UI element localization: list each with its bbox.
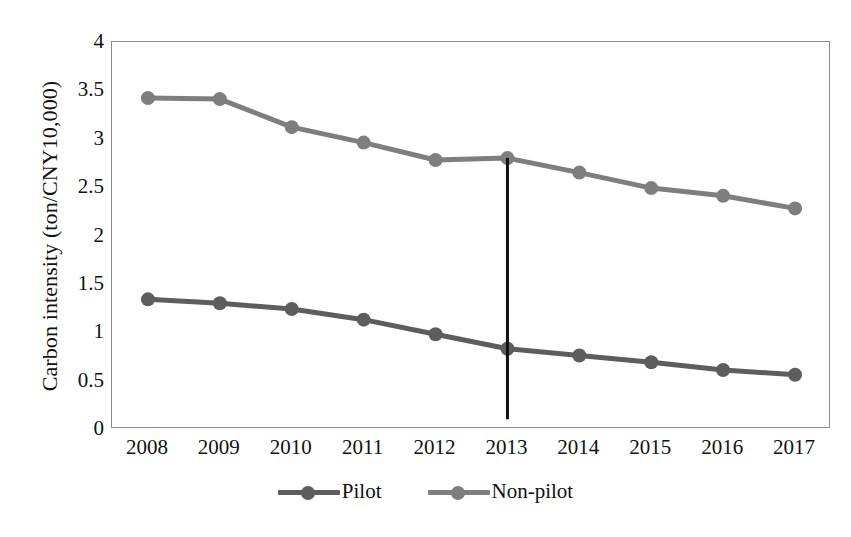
- data-point-marker: [141, 292, 155, 306]
- legend-marker-dot: [301, 486, 315, 500]
- series-line: [148, 299, 795, 374]
- x-axis-tick-label: 2014: [557, 437, 599, 458]
- chart-figure: Carbon intensity (ton/CNY10,000) 43.532.…: [0, 0, 851, 537]
- series-pilot: [141, 292, 802, 381]
- series-layer: [141, 91, 802, 382]
- x-axis-tick-labels: 2008200920102011201220132014201520162017: [111, 437, 830, 469]
- data-point-marker: [357, 136, 371, 150]
- y-axis-tick-label: 3.5: [46, 79, 104, 100]
- data-point-marker: [788, 201, 802, 215]
- y-axis-tick-label: 1: [46, 321, 104, 342]
- chart-plot-svg: [112, 42, 831, 429]
- x-axis-tick-label: 2010: [270, 437, 312, 458]
- y-axis-tick-label: 2.5: [46, 176, 104, 197]
- data-point-marker: [357, 313, 371, 327]
- y-axis-tick-label: 2: [46, 224, 104, 245]
- legend-swatch-icon: [428, 484, 490, 500]
- x-axis-tick-label: 2008: [126, 437, 168, 458]
- data-point-marker: [285, 302, 299, 316]
- data-point-marker: [644, 181, 658, 195]
- chart-legend: PilotNon-pilot: [0, 481, 851, 502]
- x-axis-tick-label: 2011: [342, 437, 383, 458]
- legend-label: Pilot: [342, 481, 382, 502]
- data-point-marker: [716, 189, 730, 203]
- legend-entry[interactable]: Pilot: [278, 481, 382, 502]
- legend-entry[interactable]: Non-pilot: [428, 481, 574, 502]
- data-point-marker: [141, 91, 155, 105]
- x-axis-tick-label: 2012: [414, 437, 456, 458]
- data-point-marker: [429, 153, 443, 167]
- series-non-pilot: [141, 91, 802, 215]
- data-point-marker: [716, 363, 730, 377]
- legend-marker-dot: [451, 486, 465, 500]
- data-point-marker: [572, 348, 586, 362]
- x-axis-tick-label: 2017: [773, 437, 815, 458]
- x-axis-tick-label: 2009: [198, 437, 240, 458]
- y-axis-tick-label: 3: [46, 127, 104, 148]
- x-axis-tick-label: 2013: [485, 437, 527, 458]
- y-axis-tick-labels: 43.532.521.510.50: [46, 41, 104, 428]
- x-axis-tick-label: 2016: [701, 437, 743, 458]
- series-line: [148, 98, 795, 208]
- legend-label: Non-pilot: [492, 481, 574, 502]
- y-axis-tick-label: 1.5: [46, 272, 104, 293]
- data-point-marker: [429, 327, 443, 341]
- y-axis-tick-label: 0.5: [46, 369, 104, 390]
- data-point-marker: [788, 368, 802, 382]
- x-axis-tick-label: 2015: [629, 437, 671, 458]
- legend-swatch-icon: [278, 484, 340, 500]
- data-point-marker: [213, 92, 227, 106]
- y-axis-tick-label: 4: [46, 31, 104, 52]
- data-point-marker: [285, 120, 299, 134]
- plot-area: [111, 41, 830, 428]
- data-point-marker: [644, 355, 658, 369]
- data-point-marker: [572, 166, 586, 180]
- y-axis-tick-label: 0: [46, 418, 104, 439]
- data-point-marker: [213, 296, 227, 310]
